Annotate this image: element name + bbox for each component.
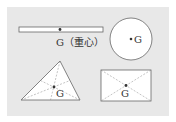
- bar-centroid-point: [59, 28, 62, 31]
- triangle-figure: G: [21, 61, 80, 100]
- triangle-centroid-label: G: [56, 88, 64, 99]
- triangle-centroid-point: [53, 86, 56, 89]
- circle-centroid-label: G: [134, 34, 142, 45]
- centroid-diagram: G（重心） G G G: [0, 0, 176, 122]
- circle-centroid-point: [130, 38, 133, 41]
- rectangle-figure: G: [101, 70, 151, 101]
- circle-figure: G: [110, 18, 152, 60]
- bar-figure: G（重心）: [19, 27, 104, 48]
- triangle-shape: [21, 61, 80, 100]
- rectangle-centroid-point: [125, 84, 128, 87]
- rectangle-centroid-label: G: [121, 88, 129, 99]
- bar-centroid-label: G（重心）: [56, 36, 104, 48]
